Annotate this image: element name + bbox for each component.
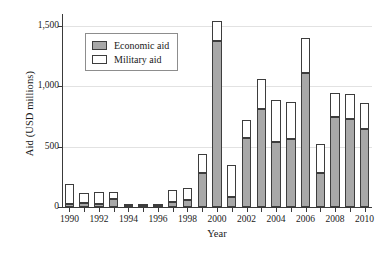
bar-group <box>65 14 74 207</box>
x-axis-tick <box>84 208 85 212</box>
bar-segment-economic-aid <box>271 142 280 207</box>
x-axis-tick <box>335 208 336 212</box>
chart-legend: Economic aid Military aid <box>85 33 178 71</box>
bar-segment-economic-aid <box>257 109 266 207</box>
legend-label-military-aid: Military aid <box>114 54 162 65</box>
bar-segment-economic-aid <box>168 202 177 207</box>
x-axis-tick <box>158 208 159 212</box>
bar-group <box>301 14 310 207</box>
bar-segment-economic-aid <box>212 41 221 207</box>
bar-segment-economic-aid <box>316 173 325 207</box>
bar-group <box>212 14 221 207</box>
x-axis-tick <box>291 208 292 212</box>
legend-swatch-military-aid <box>92 55 107 64</box>
x-axis-tick <box>143 208 144 212</box>
bar-segment-economic-aid <box>227 197 236 207</box>
bar-segment-economic-aid <box>183 200 192 207</box>
x-axis-tick <box>99 208 100 212</box>
bar-segment-military-aid <box>316 144 325 173</box>
bar-segment-military-aid <box>360 103 369 129</box>
x-axis-tick <box>173 208 174 212</box>
bar-group <box>198 14 207 207</box>
bar-group <box>257 14 266 207</box>
x-axis-tick <box>261 208 262 212</box>
bar-segment-military-aid <box>286 102 295 139</box>
bar-segment-military-aid <box>65 184 74 204</box>
bar-group <box>242 14 251 207</box>
bar-segment-military-aid <box>183 188 192 201</box>
x-axis-tick-label: 2010 <box>345 214 384 224</box>
bar-group <box>360 14 369 207</box>
bar-segment-military-aid <box>138 204 147 206</box>
bar-segment-economic-aid <box>79 203 88 207</box>
x-axis-tick <box>365 208 366 212</box>
legend-item-economic-aid: Economic aid <box>92 38 169 52</box>
bar-segment-military-aid <box>198 154 207 173</box>
bar-segment-military-aid <box>79 193 88 203</box>
chart-figure: Aid (USD millions) 199019921994199619982… <box>0 0 384 253</box>
bar-group <box>183 14 192 207</box>
x-axis-tick <box>320 208 321 212</box>
bar-segment-economic-aid <box>198 173 207 207</box>
y-axis-tick-label: 0 <box>19 202 59 212</box>
bar-segment-economic-aid <box>109 199 118 207</box>
legend-swatch-economic-aid <box>92 41 107 50</box>
x-axis-tick <box>114 208 115 212</box>
bar-group <box>227 14 236 207</box>
bar-segment-military-aid <box>301 38 310 72</box>
x-axis-title: Year <box>62 228 372 239</box>
bar-segment-military-aid <box>109 192 118 199</box>
y-axis-title: Aid (USD millions) <box>24 39 35 189</box>
bar-segment-military-aid <box>227 165 236 197</box>
bar-segment-military-aid <box>124 204 133 206</box>
x-axis-tick <box>217 208 218 212</box>
bar-segment-military-aid <box>153 204 162 206</box>
x-axis-tick <box>276 208 277 212</box>
bar-group <box>345 14 354 207</box>
y-axis-tick-label: 1,000 <box>19 81 59 91</box>
bar-segment-economic-aid <box>65 204 74 207</box>
x-axis-tick <box>247 208 248 212</box>
bar-segment-economic-aid <box>286 139 295 207</box>
bar-group <box>286 14 295 207</box>
bar-segment-economic-aid <box>242 138 251 207</box>
x-axis-tick <box>306 208 307 212</box>
x-axis-tick <box>202 208 203 212</box>
bar-segment-economic-aid <box>330 117 339 207</box>
legend-label-economic-aid: Economic aid <box>114 40 169 51</box>
bar-segment-military-aid <box>242 120 251 139</box>
bar-segment-economic-aid <box>345 119 354 207</box>
bar-group <box>271 14 280 207</box>
y-axis-tick-label: 1,500 <box>19 21 59 31</box>
bar-segment-military-aid <box>212 21 221 41</box>
bar-segment-economic-aid <box>94 204 103 207</box>
bar-group <box>316 14 325 207</box>
bar-segment-economic-aid <box>301 73 310 207</box>
bar-group <box>330 14 339 207</box>
x-axis-tick <box>187 208 188 212</box>
bar-segment-military-aid <box>271 100 280 142</box>
x-axis-tick <box>232 208 233 212</box>
y-axis-line <box>62 14 63 207</box>
y-axis-tick-label: 500 <box>19 142 59 152</box>
x-axis-tick <box>128 208 129 212</box>
x-axis-tick <box>69 208 70 212</box>
legend-item-military-aid: Military aid <box>92 52 169 66</box>
bar-segment-military-aid <box>330 93 339 117</box>
bar-segment-economic-aid <box>360 129 369 207</box>
x-axis-tick <box>350 208 351 212</box>
bar-segment-military-aid <box>345 94 354 119</box>
bar-segment-military-aid <box>257 79 266 109</box>
bar-segment-military-aid <box>94 192 103 204</box>
bar-segment-military-aid <box>168 190 177 202</box>
